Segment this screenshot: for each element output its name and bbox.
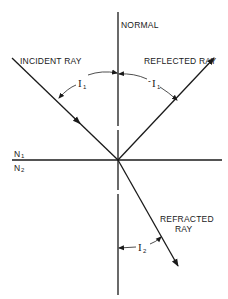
refracted-ray [118,160,178,266]
refracted-ray-label-line1: REFRACTED [160,214,214,224]
incident-ray-label: INCIDENT RAY [20,56,82,66]
angle-reflection-label: - I 1 [148,76,161,90]
svg-text:1: 1 [21,153,25,159]
medium-lower-label: N 2 [14,163,25,173]
reflected-ray-label: REFLECTED RAY [144,56,216,66]
svg-text:2: 2 [143,248,147,254]
svg-text:1: 1 [83,84,87,90]
svg-text:-: - [148,76,151,86]
svg-text:2: 2 [21,167,25,173]
angle-arc-incidence [59,72,117,98]
normal-label: NORMAL [121,20,159,30]
svg-text:N: N [14,163,20,173]
optics-diagram: NORMAL INCIDENT RAY REFLECTED RAY REFRAC… [0,0,228,299]
svg-text:I: I [152,77,156,89]
medium-upper-label: N 1 [14,149,25,159]
angle-refraction-label: I 2 [138,241,147,254]
angle-incidence-label: I 1 [78,77,87,90]
refracted-ray-label-line2: RAY [175,224,193,234]
svg-text:I: I [138,241,142,253]
svg-text:I: I [78,77,82,89]
reflected-ray [118,58,214,160]
incident-ray [12,58,118,160]
svg-text:N: N [14,149,20,159]
